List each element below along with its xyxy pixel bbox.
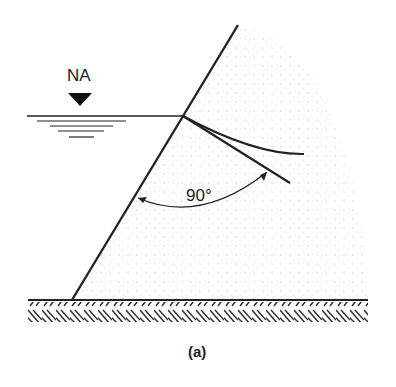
soil-fill — [72, 25, 368, 300]
ground-hatch — [28, 302, 368, 322]
water-level-icon — [68, 93, 92, 106]
water-level-label: NA — [67, 66, 91, 86]
figure-caption: (a) — [188, 343, 206, 360]
angle-label: 90° — [186, 186, 212, 206]
